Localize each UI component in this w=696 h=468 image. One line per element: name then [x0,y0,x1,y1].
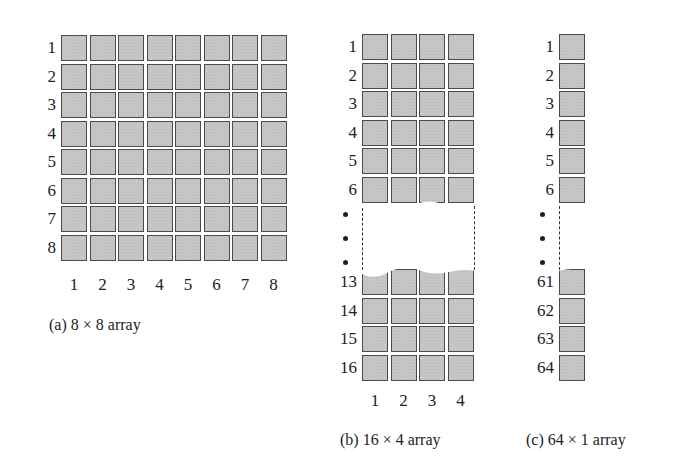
col-label: 1 [60,275,88,295]
array-cell [204,149,230,175]
array-cell [362,120,388,146]
ellipsis-dot [540,260,545,265]
array-cell [118,235,144,261]
col-label: 2 [89,275,117,295]
array-cell [362,355,388,381]
row-label: 63 [524,325,554,353]
array-cell [118,64,144,90]
array-cell [118,35,144,61]
col-label: 3 [117,275,145,295]
row-label: 5 [528,147,554,175]
array-cell [118,92,144,118]
array-cell [118,149,144,175]
array-cell [204,206,230,232]
col-label: 4 [447,391,475,411]
array-cell [147,206,173,232]
array-cell [147,149,173,175]
array-cell [204,121,230,147]
array-cell [61,64,87,90]
row-label: 13 [327,268,357,296]
array-cell [448,326,474,352]
array-cell [232,235,258,261]
array-cell [559,355,585,381]
array-cell [559,34,585,60]
row-label: 4 [30,120,56,148]
row-label: 2 [30,63,56,91]
array-cell [90,35,116,61]
array-cell [61,121,87,147]
row-label: 16 [327,354,357,382]
ellipsis-dot [343,260,348,265]
row-label: 5 [30,148,56,176]
row-label: 15 [327,325,357,353]
array-cell [61,178,87,204]
array-cell [147,121,173,147]
row-label: 3 [30,91,56,119]
dashed-right-edge [474,206,475,270]
array-cell [362,326,388,352]
array-cell [61,149,87,175]
array-cell [419,326,445,352]
array-cell [90,206,116,232]
array-cell [559,91,585,117]
row-label: 62 [524,297,554,325]
array-cell [448,355,474,381]
array-cell [175,64,201,90]
dashed-left-edge [559,206,560,270]
array-cell [559,326,585,352]
caption-64x1: (c) 64 × 1 array [526,431,626,449]
array-cell [232,121,258,147]
array-cell [448,120,474,146]
row-label: 6 [30,177,56,205]
col-label: 2 [390,391,418,411]
array-cell [391,34,417,60]
array-cell [448,34,474,60]
ellipsis-dot [540,212,545,217]
array-cell [362,63,388,89]
array-cell [391,298,417,324]
array-cell [147,235,173,261]
col-label: 1 [361,391,389,411]
array-cell [204,178,230,204]
row-label: 1 [528,33,554,61]
array-cell [559,63,585,89]
array-cell [147,92,173,118]
col-label: 7 [231,275,259,295]
array-cell [232,178,258,204]
ellipsis-dot [540,236,545,241]
array-cell [204,35,230,61]
array-cell [391,326,417,352]
array-cell [419,298,445,324]
array-cell [448,63,474,89]
array-cell [362,91,388,117]
col-label: 8 [260,275,288,295]
caption-16x4: (b) 16 × 4 array [340,431,441,449]
array-cell [362,34,388,60]
array-cell [419,355,445,381]
array-cell [448,298,474,324]
array-cell [419,148,445,174]
array-cell [90,178,116,204]
array-cell [261,35,287,61]
col-label: 6 [203,275,231,295]
array-cell [559,148,585,174]
col-label: 5 [174,275,202,295]
array-cell [559,120,585,146]
array-cell [261,206,287,232]
col-label: 4 [146,275,174,295]
array-cell [362,298,388,324]
array-cell [232,92,258,118]
array-cell [419,34,445,60]
row-label: 14 [327,297,357,325]
array-cell [175,121,201,147]
array-cell [175,149,201,175]
col-label: 3 [418,391,446,411]
row-label: 1 [331,33,357,61]
array-cell [147,35,173,61]
array-cell [261,149,287,175]
array-cell [118,121,144,147]
array-cell [391,148,417,174]
array-cell [419,120,445,146]
row-label: 64 [524,354,554,382]
array-cell [90,64,116,90]
